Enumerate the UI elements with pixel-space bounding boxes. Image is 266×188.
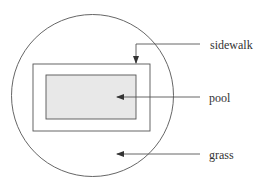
grass-label: grass (209, 148, 234, 162)
pool-diagram: sidewalk pool grass (0, 0, 266, 188)
sidewalk-label: sidewalk (210, 38, 253, 52)
pool-label: pool (209, 91, 231, 105)
sidewalk-arrow (136, 44, 200, 63)
